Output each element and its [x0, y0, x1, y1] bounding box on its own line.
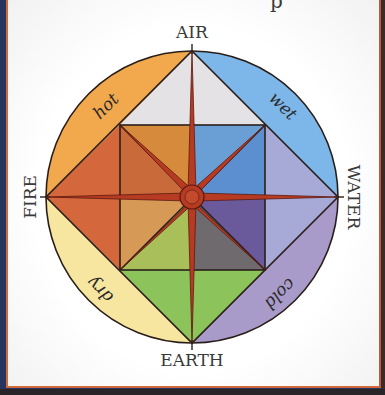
rose-medallion-inner	[185, 190, 199, 204]
caption-fragment: p	[270, 0, 283, 13]
four-elements-diagram: p	[0, 0, 385, 395]
label-water: WATER	[344, 165, 364, 231]
label-earth: EARTH	[160, 350, 223, 370]
label-fire: FIRE	[20, 175, 40, 219]
label-air: AIR	[175, 22, 209, 42]
